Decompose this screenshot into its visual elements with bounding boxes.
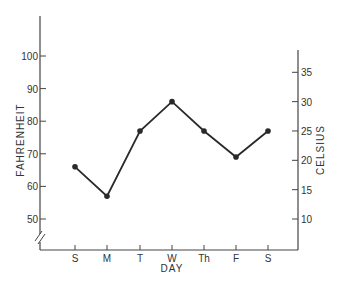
x-axis-ticks: SMTWThFS — [72, 245, 272, 264]
right-y-axis-label: CELSIUS — [315, 125, 326, 175]
left-y-axis-label: FAHRENHEIT — [15, 103, 26, 176]
x-tick-label: M — [103, 253, 111, 264]
temperature-chart: 5060708090100 101520253035 SMTWThFS DAY … — [0, 0, 337, 286]
x-tick-label: Th — [198, 253, 210, 264]
data-point — [169, 99, 175, 105]
right-tick-label: 20 — [301, 155, 313, 166]
data-point — [104, 193, 110, 199]
data-point — [265, 128, 271, 134]
left-tick-label: 50 — [27, 214, 39, 225]
left-tick-label: 90 — [27, 84, 39, 95]
right-y-axis-ticks: 101520253035 — [292, 67, 313, 225]
x-tick-label: S — [72, 253, 79, 264]
data-point — [201, 128, 207, 134]
axes — [35, 16, 298, 250]
left-tick-label: 80 — [27, 116, 39, 127]
x-tick-label: F — [233, 253, 239, 264]
data-series — [72, 99, 271, 199]
left-tick-label: 70 — [27, 149, 39, 160]
data-point — [72, 164, 78, 170]
data-point — [233, 154, 239, 160]
left-tick-label: 100 — [21, 51, 38, 62]
temperature-line — [75, 102, 268, 197]
right-tick-label: 25 — [301, 126, 313, 137]
right-tick-label: 15 — [301, 185, 313, 196]
x-axis-label: DAY — [161, 263, 184, 274]
x-tick-label: S — [265, 253, 272, 264]
right-tick-label: 10 — [301, 214, 313, 225]
x-tick-label: T — [137, 253, 143, 264]
right-tick-label: 30 — [301, 97, 313, 108]
right-tick-label: 35 — [301, 67, 313, 78]
data-point — [137, 128, 143, 134]
left-tick-label: 60 — [27, 181, 39, 192]
